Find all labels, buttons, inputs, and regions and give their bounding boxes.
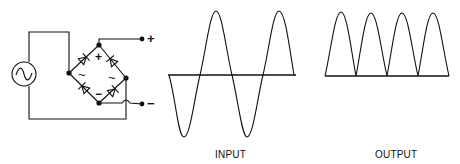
- ac-terminal-left-label: ~: [78, 67, 86, 82]
- rectifier-diagram: [0, 0, 460, 164]
- wire-positive-output: [99, 39, 142, 45]
- input-label: INPUT: [215, 149, 246, 160]
- terminal-negative: [140, 102, 145, 107]
- ac-source-sine-icon: [16, 68, 32, 80]
- bridge-positive-label: +: [95, 50, 102, 64]
- output-label: OUTPUT: [375, 149, 417, 160]
- bridge-negative-label: −: [95, 87, 102, 101]
- output-positive-label: +: [147, 31, 155, 46]
- node-left: [66, 70, 71, 75]
- wire-top: [29, 32, 69, 73]
- input-waveform: [169, 11, 294, 137]
- wire-negative-output: [99, 100, 142, 104]
- output-negative-label: −: [147, 96, 155, 111]
- node-top: [96, 42, 101, 47]
- node-bottom: [96, 100, 101, 105]
- node-right: [123, 75, 128, 80]
- output-waveform: [325, 12, 449, 76]
- ac-terminal-right-label: ~: [108, 70, 116, 85]
- terminal-positive: [140, 37, 145, 42]
